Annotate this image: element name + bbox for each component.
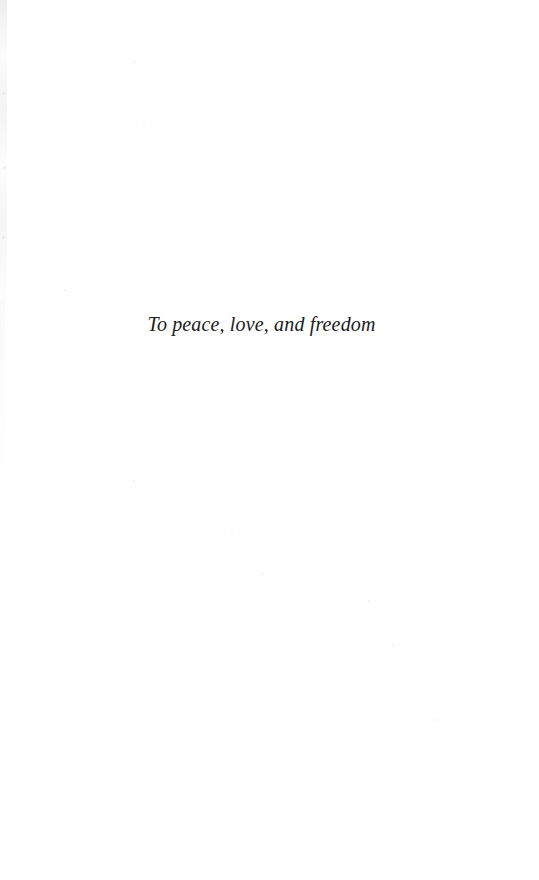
left-scan-edge xyxy=(0,0,7,300)
scan-speckle xyxy=(2,92,5,95)
dedication-block: To peace, love, and freedom xyxy=(0,311,539,337)
dedication-page: To peace, love, and freedom xyxy=(0,0,539,880)
scan-speckle xyxy=(261,573,263,575)
scan-speckle xyxy=(368,600,370,602)
scan-speckle xyxy=(231,532,233,534)
left-scan-edge-lower xyxy=(0,300,5,630)
scan-speckle xyxy=(3,166,6,169)
scan-speckle xyxy=(392,644,394,646)
scan-speckle xyxy=(133,480,135,482)
scan-speckle xyxy=(133,61,135,63)
scan-speckle xyxy=(434,719,436,721)
scan-speckle xyxy=(64,289,66,291)
scan-speckle xyxy=(143,124,145,126)
dedication-text: To peace, love, and freedom xyxy=(147,311,375,337)
scan-speckle xyxy=(2,236,5,239)
